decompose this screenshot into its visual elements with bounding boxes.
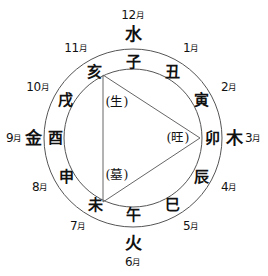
- month-label-3: 3月: [245, 132, 261, 144]
- branch-label-wei: 未: [88, 198, 103, 213]
- element-label-metal: 金: [25, 130, 42, 147]
- branch-label-hai: 亥: [87, 65, 102, 80]
- element-label-water: 水: [125, 26, 142, 43]
- stage-label-sheng: (生): [106, 96, 129, 109]
- branch-label-chou: 丑: [165, 65, 180, 80]
- branch-label-yin: 寅: [194, 93, 209, 108]
- outer-circle: [44, 49, 222, 227]
- element-label-wood: 木: [226, 130, 243, 147]
- month-label-2: 2月: [221, 81, 237, 93]
- element-label-fire: 火: [125, 235, 142, 252]
- branch-label-mao: 卯: [205, 131, 220, 146]
- month-label-12: 12月: [121, 9, 145, 21]
- month-label-6: 6月: [125, 256, 141, 268]
- month-label-7: 7月: [70, 220, 86, 232]
- branch-label-si: 巳: [165, 198, 180, 213]
- stage-label-wang: (旺): [167, 132, 190, 145]
- zodiac-circle-diagram: 水 木 火 金 12月 1月 2月 3月 4月 5月 6月 7月 8月 9月 1…: [0, 0, 268, 276]
- branch-label-you: 酉: [48, 131, 63, 146]
- branch-label-xu: 戌: [58, 93, 73, 108]
- month-label-8: 8月: [32, 181, 48, 193]
- month-label-10: 10月: [26, 81, 50, 93]
- month-label-9: 9月: [6, 132, 22, 144]
- month-label-11: 11月: [64, 42, 88, 54]
- branch-label-wu: 午: [126, 208, 141, 223]
- month-label-1: 1月: [183, 42, 199, 54]
- branch-label-shen: 申: [59, 170, 74, 185]
- month-label-4: 4月: [221, 181, 237, 193]
- branch-label-chen: 辰: [194, 170, 209, 185]
- branch-label-zi: 子: [126, 55, 141, 70]
- stage-label-mu: (墓): [106, 169, 129, 182]
- month-label-5: 5月: [183, 220, 199, 232]
